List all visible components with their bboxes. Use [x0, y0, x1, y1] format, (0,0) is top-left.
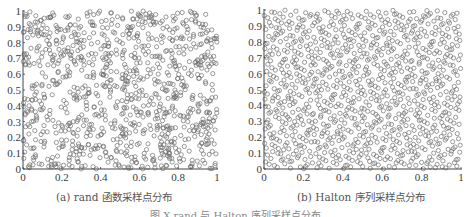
data-points [262, 8, 463, 171]
y-tick-label: 0.5 [248, 84, 262, 96]
x-tick-label: 1 [458, 171, 464, 183]
x-tick-label: 0.8 [415, 171, 429, 183]
y-tick-label: 0.3 [7, 116, 21, 128]
y-tick-label: 0.4 [7, 100, 21, 112]
y-tick-label: 0.2 [248, 131, 262, 143]
caption-panel-a: (a) rand 函数采样点分布 [56, 189, 172, 204]
y-tick-label: 0.8 [248, 36, 262, 48]
x-tick-label: 0.8 [171, 171, 185, 183]
x-tick-label: 0.4 [336, 171, 350, 183]
y-tick-label: 0 [16, 163, 22, 175]
y-tick-label: 0.3 [248, 115, 262, 127]
x-tick-label: 0.6 [375, 171, 389, 183]
y-tick-label: 0 [257, 163, 263, 175]
y-tick-label: 0.6 [248, 68, 262, 80]
x-tick-label: 0 [20, 171, 26, 183]
y-tick-label: 1 [257, 4, 263, 16]
x-tick-label: 0.2 [55, 171, 69, 183]
y-tick-label: 0.7 [248, 52, 262, 64]
y-tick-label: 0.1 [7, 147, 21, 159]
x-tick-label: 1 [214, 171, 220, 183]
y-tick-label: 0.9 [7, 21, 21, 33]
y-tick-label: 0.9 [248, 20, 262, 32]
scatter-plot-rand: 00.20.40.60.8100.10.20.30.40.50.60.70.80… [7, 5, 220, 183]
y-tick-label: 0.1 [248, 147, 262, 159]
y-tick-label: 0.8 [7, 37, 21, 49]
y-tick-label: 0.4 [248, 99, 262, 111]
y-tick-label: 0.2 [7, 131, 21, 143]
y-tick-label: 0.6 [7, 68, 21, 80]
x-tick-label: 0.4 [94, 171, 108, 183]
x-tick-label: 0.6 [133, 171, 147, 183]
figure-canvas: 00.20.40.60.8100.10.20.30.40.50.60.70.80… [0, 0, 469, 217]
x-tick-label: 0 [261, 171, 267, 183]
y-tick-label: 0.7 [7, 52, 21, 64]
y-tick-label: 0.5 [7, 84, 21, 96]
data-points [21, 9, 219, 171]
scatter-plot-halton: 00.20.40.60.8100.10.20.30.40.50.60.70.80… [248, 4, 464, 183]
figure-caption: 图 X rand 与 Halton 序列采样点分布 [150, 207, 321, 217]
y-tick-label: 1 [16, 5, 22, 17]
caption-panel-b: (b) Halton 序列采样点分布 [297, 189, 425, 204]
x-tick-label: 0.2 [297, 171, 311, 183]
